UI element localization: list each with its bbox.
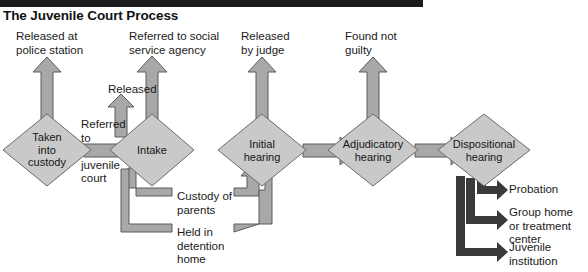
label-probation: Probation — [509, 183, 558, 197]
label-released: Released — [108, 83, 157, 97]
label-custody-of-parents: Custody of parents — [177, 190, 232, 217]
diagram-page: The Juvenile Court Process — [0, 0, 588, 272]
label-released-by-judge: Released by judge — [241, 30, 290, 57]
arrow-released-at-police-station — [33, 57, 61, 122]
label-juvenile-institution: Juvenile institution — [509, 241, 558, 268]
node-label-intake: Intake — [137, 144, 167, 157]
label-referred-to-social-service-agency: Referred to social service agency — [129, 30, 219, 57]
label-held-in-detention-home: Held in detention home — [177, 226, 224, 267]
label-released-at-police-station: Released at police station — [16, 30, 83, 57]
node-label-taken-into-custody: Taken into custody — [28, 131, 66, 169]
label-found-not-guilty: Found not guilty — [345, 30, 397, 57]
node-label-dispositional-hearing: Dispositional hearing — [453, 138, 515, 163]
node-label-initial-hearing: Initial hearing — [244, 138, 281, 163]
node-label-adjudicatory-hearing: Adjudicatory hearing — [343, 138, 404, 163]
label-referred-to-juvenile-court: Referred to juvenile court — [81, 118, 126, 186]
